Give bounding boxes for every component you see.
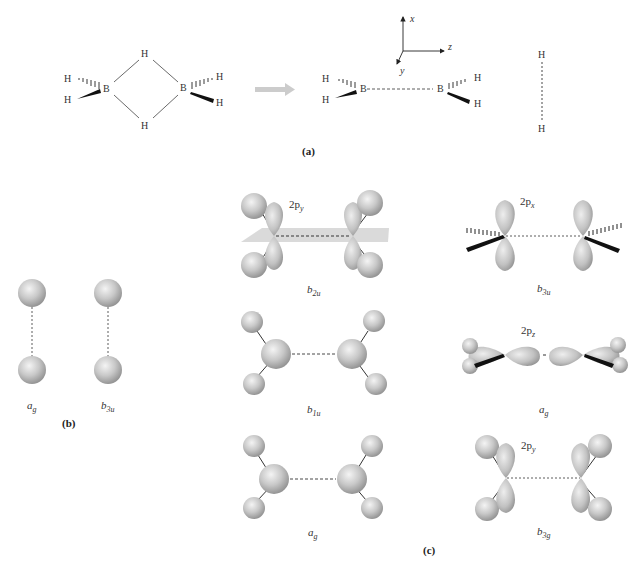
ao: 2p [520,195,531,207]
terminal-h-right-bottom: H [216,98,223,108]
h2-top: H [538,50,545,60]
subscript: g [33,405,37,414]
subscript: 2u [313,289,321,298]
subscript: g [545,409,549,418]
ao: 2p [521,324,532,336]
fragment-h-left-top: H [322,74,329,84]
ao: 2p [289,198,300,210]
ao-sub: x [531,201,535,210]
orbital-b3g [475,434,612,521]
orbital-b3u [466,200,621,271]
orbital-label-b3u: b3u [537,283,551,297]
terminal-h-right-top: H [216,72,223,82]
coordinate-axes-icon [397,17,444,64]
hashed-wedge-icon [79,78,99,89]
subscript: 3g [543,531,551,540]
orbital-label-ag: ag [308,527,318,541]
ao-sub: z [532,330,535,339]
reaction-arrow-icon [255,83,295,96]
orbital-label-b3g: b3g [537,526,551,540]
subscript: 1u [313,409,321,418]
bridge-h-bottom: H [141,121,148,131]
ao-label-b3u: 2px [520,196,535,210]
terminal-h-left-bottom: H [64,95,71,105]
subscript: g [314,532,318,541]
fragment-h-left-bottom: H [322,95,329,105]
diborane-structure [77,60,214,118]
subscript: 3u [107,405,115,414]
orbital-ag [243,435,383,519]
terminal-h-left-top: H [64,74,71,84]
fragment-h-right-top: H [474,73,481,83]
panel-label-a: (a) [302,146,315,157]
ao-label-b3g: 2py [521,440,536,454]
ao-sub: y [300,204,304,213]
bridge-h-top: H [141,49,148,59]
orbital-label-b1u: b1u [307,404,321,418]
fragment-boron-right: B [437,84,444,94]
panel-label-b: (b) [62,418,75,429]
axis-y-label: y [400,66,404,76]
orbital-label-b-b3u: b3u [101,400,115,414]
orbital-label-b2u: b2u [307,284,321,298]
boron-left: B [103,84,110,94]
ao-label-b2u: 2py [289,199,304,213]
orbital-label-ag-2pz: ag [539,404,549,418]
panel-label-c: (c) [423,545,435,556]
ao-sub: y [532,445,536,454]
fragment-h-right-bottom: H [474,99,481,109]
orbital-b2u [241,190,389,278]
orbital-label-b-ag: ag [27,400,37,414]
h2-bottom: H [538,124,545,134]
boron-right: B [180,83,187,93]
axis-z-label: z [448,42,452,52]
solid-wedge-icon [77,89,101,99]
axis-x-label: x [410,14,414,24]
ao-label-ag-2pz: 2pz [521,325,535,339]
orbital-b1u [241,310,387,395]
orbital-ag-2pz [462,337,628,374]
ao: 2p [521,439,532,451]
panel-b-orbitals [18,279,122,384]
fragment-boron-left: B [360,84,367,94]
subscript: 3u [543,288,551,297]
